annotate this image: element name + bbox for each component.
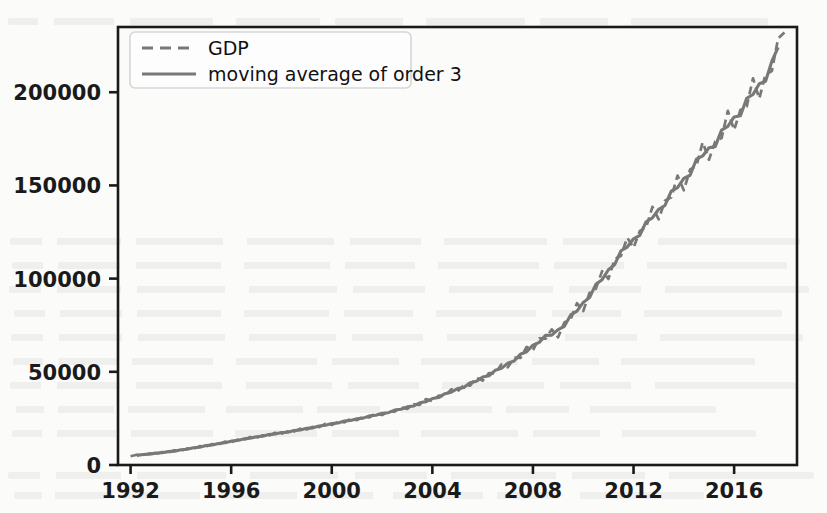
y-axis-ticks: 050000100000150000200000: [13, 81, 118, 478]
x-tick-label: 1996: [202, 479, 260, 503]
data-series-layer: [131, 33, 785, 457]
legend-label-moving-average: moving average of order 3: [208, 63, 462, 85]
plot-area-frame: [118, 27, 797, 465]
legend-label-gdp: GDP: [208, 37, 249, 59]
series-line-gdp: [131, 33, 785, 457]
x-tick-label: 2000: [303, 479, 361, 503]
y-tick-label: 0: [86, 454, 101, 478]
y-tick-label: 100000: [13, 268, 101, 292]
x-axis-ticks: 1992199620002004200820122016: [101, 465, 763, 503]
x-tick-label: 1992: [101, 479, 159, 503]
x-tick-label: 2008: [504, 479, 562, 503]
legend: GDP moving average of order 3: [130, 32, 462, 88]
y-tick-label: 200000: [13, 81, 101, 105]
y-tick-label: 150000: [13, 174, 101, 198]
x-tick-label: 2016: [705, 479, 763, 503]
x-tick-label: 2012: [604, 479, 662, 503]
y-tick-label: 50000: [28, 361, 101, 385]
series-line-moving-average-of-order-3: [137, 47, 778, 455]
x-tick-label: 2004: [403, 479, 461, 503]
gdp-chart-figure: 1992199620002004200820122016 05000010000…: [0, 0, 827, 513]
